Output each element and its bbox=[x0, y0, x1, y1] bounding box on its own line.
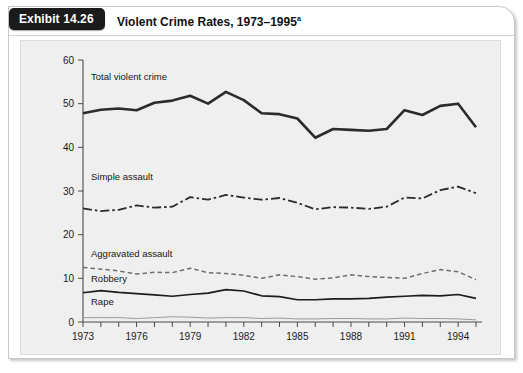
series-label-simple-assault: Simple assault bbox=[91, 171, 153, 182]
y-tick-label: 30 bbox=[63, 186, 75, 197]
series-line bbox=[83, 187, 476, 211]
x-tick-label: 1994 bbox=[447, 331, 470, 342]
screenshot-root: Exhibit 14.26 Violent Crime Rates, 1973–… bbox=[0, 0, 523, 373]
chart-axes bbox=[78, 60, 482, 327]
y-tick-label: 10 bbox=[63, 273, 75, 284]
y-tick-label: 60 bbox=[63, 55, 75, 66]
x-axis-tick-labels: 19731976197919821985198819911994 bbox=[72, 331, 470, 342]
x-tick-label: 1976 bbox=[125, 331, 148, 342]
y-tick-label: 0 bbox=[68, 317, 74, 328]
series-line bbox=[83, 267, 476, 279]
y-tick-label: 50 bbox=[63, 98, 75, 109]
y-tick-label: 40 bbox=[63, 142, 75, 153]
chart-series-labels: Total violent crimeSimple assaultAggrava… bbox=[91, 71, 173, 307]
series-line bbox=[83, 290, 476, 300]
exhibit-title: Violent Crime Rates, 1973–1995a bbox=[117, 8, 301, 30]
y-axis-tick-labels: 0102030405060 bbox=[63, 55, 75, 328]
x-tick-label: 1973 bbox=[72, 331, 95, 342]
x-axis-tick-marks bbox=[83, 322, 476, 327]
series-label-total-violent-crime: Total violent crime bbox=[91, 71, 167, 82]
x-tick-label: 1985 bbox=[286, 331, 309, 342]
x-tick-label: 1982 bbox=[233, 331, 256, 342]
line-chart: 0102030405060 19731976197919821985198819… bbox=[20, 40, 501, 355]
exhibit-title-footnote-marker: a bbox=[297, 15, 301, 22]
chart-series-group bbox=[83, 92, 476, 320]
x-tick-label: 1988 bbox=[340, 331, 363, 342]
series-label-robbery: Robbery bbox=[91, 273, 127, 284]
series-line bbox=[83, 92, 476, 138]
series-line bbox=[83, 317, 476, 320]
exhibit-number-tab: Exhibit 14.26 bbox=[9, 8, 105, 30]
x-tick-label: 1991 bbox=[393, 331, 416, 342]
exhibit-title-text: Violent Crime Rates, 1973–1995 bbox=[117, 15, 297, 29]
y-axis-tick-marks bbox=[78, 60, 83, 322]
series-label-aggravated-assault: Aggravated assault bbox=[91, 248, 173, 259]
x-tick-label: 1979 bbox=[179, 331, 202, 342]
header-divider bbox=[9, 35, 514, 36]
y-tick-label: 20 bbox=[63, 229, 75, 240]
series-label-rape: Rape bbox=[91, 296, 114, 307]
